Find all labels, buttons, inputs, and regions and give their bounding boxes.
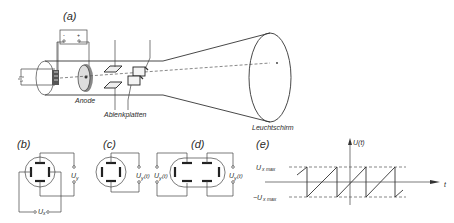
svg-text:−U: −U [253, 194, 263, 201]
svg-text:y: y [75, 175, 79, 181]
panel-d: (d) U y (t) U y (t) [154, 138, 243, 196]
panel-c: (c) U y (t) [96, 138, 150, 192]
tube-funnel [163, 33, 291, 122]
svg-text:t: t [444, 181, 447, 188]
cathode-icon [52, 70, 59, 85]
svg-text:+: + [77, 32, 80, 38]
deflection-plates-label: Ablenkplatten [103, 111, 147, 119]
svg-text:(t): (t) [144, 173, 150, 179]
panel-e: (e) U(t) t U x max −U x max [253, 138, 447, 205]
panel-d-label: (d) [191, 138, 205, 150]
beam-spot [276, 62, 278, 64]
panel-c-label: (c) [103, 138, 116, 150]
svg-text:x max: x max [262, 196, 277, 202]
crt-diagram: (a) - + [0, 0, 454, 223]
svg-text:-: - [63, 32, 65, 38]
svg-text:x max: x max [261, 166, 276, 172]
panel-a: (a) - + [18, 10, 294, 131]
svg-text:x: x [42, 210, 46, 216]
panel-b-label: (b) [17, 138, 31, 150]
anode-icon [78, 64, 93, 92]
deflection-plates-x-icon [128, 40, 150, 110]
svg-text:(t): (t) [162, 173, 168, 179]
svg-text:(t): (t) [237, 173, 243, 179]
panel-e-label: (e) [256, 138, 270, 150]
anode-label: Anode [74, 97, 95, 104]
svg-text:U(t): U(t) [353, 139, 365, 147]
panel-a-label: (a) [63, 10, 77, 22]
fluorescent-screen [249, 33, 291, 122]
screen-label: Leuchtschirm [252, 124, 294, 131]
panel-b: (b) U y U x [17, 138, 79, 216]
